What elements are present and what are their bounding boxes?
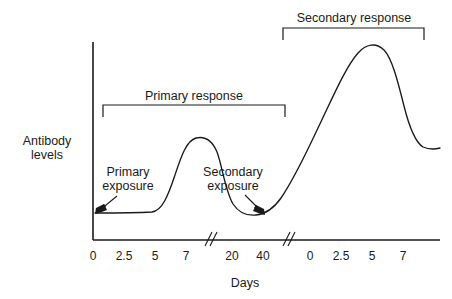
axis-break-first <box>205 232 217 246</box>
secondary-response-label: Secondary response <box>297 11 412 25</box>
x-tick-4: 20 <box>225 249 239 263</box>
antibody-response-chart: Primary response Secondary response Prim… <box>0 0 452 299</box>
x-tick-1: 2.5 <box>116 249 133 263</box>
secondary-exposure-label-line1: Secondary <box>203 165 264 179</box>
x-tick-6: 0 <box>307 249 314 263</box>
primary-exposure-label-line2: exposure <box>102 179 153 193</box>
x-tick-3: 7 <box>183 249 190 263</box>
y-axis-label-line1: Antibody <box>23 134 72 148</box>
x-tick-8: 5 <box>369 249 376 263</box>
secondary-response-bracket <box>283 28 424 40</box>
x-tick-9: 7 <box>400 249 407 263</box>
secondary-exposure-arrow <box>245 195 265 215</box>
x-tick-0: 0 <box>90 249 97 263</box>
x-tick-7: 2.5 <box>333 249 350 263</box>
x-tick-2: 5 <box>152 249 159 263</box>
primary-response-label: Primary response <box>145 89 243 103</box>
y-axis-label-line2: levels <box>31 148 63 162</box>
chart-svg: Primary response Secondary response Prim… <box>0 0 452 299</box>
primary-exposure-label-line1: Primary <box>106 165 150 179</box>
primary-response-bracket <box>103 105 285 117</box>
primary-exposure-arrow <box>95 196 117 214</box>
axis-break-second <box>283 232 295 246</box>
secondary-exposure-label-line2: exposure <box>207 179 258 193</box>
x-axis-title: Days <box>231 276 259 290</box>
x-tick-5: 40 <box>256 249 270 263</box>
